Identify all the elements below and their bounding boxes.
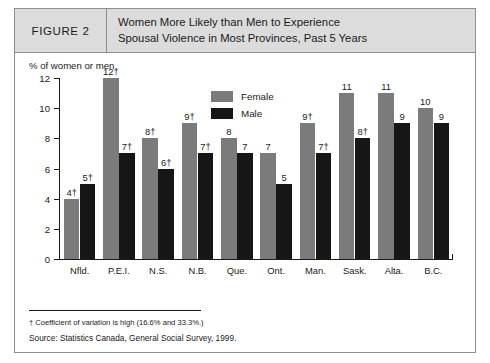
figure-footer: † Coefficient of variation is high (16.6…: [15, 310, 475, 352]
figure-title-line-2: Spousal Violence in Most Provinces, Past…: [118, 31, 475, 47]
bar-male[interactable]: 7†: [198, 153, 214, 259]
bar-male[interactable]: 5†: [80, 184, 96, 259]
bar-group: 12†7†P.E.I.: [99, 78, 138, 259]
x-axis-category-label: N.B.: [188, 265, 206, 276]
bar-male[interactable]: 8†: [355, 138, 371, 259]
bar-group: 75Ont.: [257, 78, 296, 259]
x-axis-category-label: Ont.: [267, 265, 285, 276]
x-axis-category-label: Man.: [305, 265, 326, 276]
bar-value-label: 7: [242, 141, 247, 152]
bar-female[interactable]: 7: [260, 153, 276, 259]
bar-group: 109B.C.: [414, 78, 453, 259]
bar-value-label: 5: [282, 172, 287, 183]
bar-female[interactable]: 11: [378, 93, 394, 259]
bar-value-label: 8†: [358, 126, 368, 137]
bar-male[interactable]: 5: [276, 184, 292, 259]
bar-value-label: 10: [420, 96, 430, 107]
bar-value-label: 9†: [302, 111, 312, 122]
bar-female[interactable]: 8: [221, 138, 237, 259]
bar-female[interactable]: 9†: [300, 123, 316, 259]
bar-group: 119Alta.: [374, 78, 413, 259]
bar-group: 8†6†N.S.: [139, 78, 178, 259]
figure-container: FIGURE 2 Women More Likely than Men to E…: [14, 8, 476, 353]
y-tick-mark: [54, 169, 59, 170]
bar-male[interactable]: 6†: [158, 169, 174, 260]
bar-value-label: 7: [266, 141, 271, 152]
figure-number-cell: FIGURE 2: [15, 9, 107, 52]
figure-title-line-1: Women More Likely than Men to Experience: [118, 15, 475, 31]
bar-male[interactable]: 7†: [119, 153, 135, 259]
source-text: Source: Statistics Canada, General Socia…: [29, 333, 475, 344]
bar-value-label: 9†: [184, 111, 194, 122]
plot-area: 024681012 4†5†Nfld.12†7†P.E.I.8†6†N.S.9†…: [59, 78, 453, 260]
bar-group: 4†5†Nfld.: [60, 78, 99, 259]
y-tick-label: 8: [45, 133, 50, 144]
x-axis-category-label: Sask.: [343, 265, 366, 276]
bar-male[interactable]: 9: [394, 123, 410, 259]
y-tick-mark: [54, 259, 59, 260]
bar-value-label: 4†: [66, 187, 76, 198]
bar-value-label: 8†: [145, 126, 155, 137]
bar-value-label: 7†: [200, 141, 210, 152]
x-axis-category-label: Alta.: [385, 265, 404, 276]
bar-group: 9†7†N.B.: [178, 78, 217, 259]
footer-divider: [29, 310, 201, 311]
x-axis-category-label: B.C.: [424, 265, 442, 276]
bar-value-label: 7†: [122, 141, 132, 152]
bar-value-label: 12†: [103, 66, 119, 77]
bar-value-label: 5†: [82, 172, 92, 183]
x-axis-category-label: N.S.: [149, 265, 167, 276]
bar-value-label: 9: [399, 111, 404, 122]
bar-value-label: 6†: [161, 157, 171, 168]
y-tick-label: 10: [39, 103, 50, 114]
y-tick-label: 2: [45, 223, 50, 234]
bar-female[interactable]: 12†: [103, 78, 119, 259]
y-tick-mark: [54, 138, 59, 139]
bar-value-label: 8: [226, 126, 231, 137]
bar-male[interactable]: 7: [237, 153, 253, 259]
bar-value-label: 11: [342, 81, 352, 92]
bar-group: 118†Sask.: [335, 78, 374, 259]
y-tick-mark: [54, 229, 59, 230]
y-axis-title: % of women or men: [29, 60, 114, 71]
bar-group: 87Que.: [217, 78, 256, 259]
bar-female[interactable]: 11: [339, 93, 355, 259]
bar-female[interactable]: 4†: [64, 199, 80, 259]
figure-number-label: FIGURE 2: [32, 25, 90, 37]
bar-value-label: 9: [439, 111, 444, 122]
y-tick-label: 0: [45, 254, 50, 265]
figure-title-cell: Women More Likely than Men to Experience…: [107, 9, 475, 52]
bar-male[interactable]: 7†: [316, 153, 332, 259]
x-axis-category-label: Nfld.: [70, 265, 89, 276]
x-axis-category-label: P.E.I.: [108, 265, 130, 276]
x-axis-line: [59, 259, 453, 260]
x-axis-category-label: Que.: [227, 265, 247, 276]
y-tick-label: 6: [45, 163, 50, 174]
bar-value-label: 7†: [318, 141, 328, 152]
y-tick-mark: [54, 108, 59, 109]
y-tick-mark: [54, 199, 59, 200]
y-tick-label: 4: [45, 193, 50, 204]
figure-header: FIGURE 2 Women More Likely than Men to E…: [15, 9, 475, 53]
y-tick-label: 12: [39, 73, 50, 84]
footnote-text: † Coefficient of variation is high (16.6…: [29, 317, 475, 328]
bar-female[interactable]: 9†: [182, 123, 198, 259]
bar-male[interactable]: 9: [434, 123, 450, 259]
bar-female[interactable]: 8†: [142, 138, 158, 259]
bar-female[interactable]: 10: [418, 108, 434, 259]
bar-group: 9†7†Man.: [296, 78, 335, 259]
bars-layer: 4†5†Nfld.12†7†P.E.I.8†6†N.S.9†7†N.B.87Qu…: [60, 78, 453, 259]
bar-value-label: 11: [381, 81, 391, 92]
y-tick-mark: [54, 78, 59, 79]
chart-body: % of women or men Female Male 024681012 …: [15, 53, 475, 305]
